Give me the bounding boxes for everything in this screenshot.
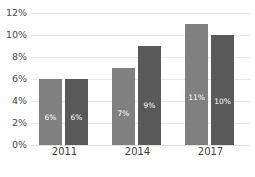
- bars-layer: 6%6%7%9%11%10%: [31, 13, 250, 145]
- bar-value-label: 11%: [185, 94, 208, 102]
- plot-area: 6%6%7%9%11%10%: [31, 13, 250, 145]
- bar-value-label: 6%: [65, 114, 88, 122]
- y-axis-tick-label: 4%: [0, 96, 27, 106]
- bar[interactable]: 7%: [112, 68, 135, 145]
- bar-chart: 0%2%4%6%8%10%12% 6%6%7%9%11%10% 20112014…: [0, 0, 255, 177]
- bar-value-label: 6%: [39, 114, 62, 122]
- bar[interactable]: 6%: [39, 79, 62, 145]
- y-axis-tick-label: 6%: [0, 74, 27, 84]
- bar-group: 6%6%: [31, 13, 104, 145]
- bar[interactable]: 10%: [211, 35, 234, 145]
- x-axis-tick-label: 2017: [198, 147, 223, 157]
- y-axis-tick-label: 2%: [0, 118, 27, 128]
- bar[interactable]: 9%: [138, 46, 161, 145]
- y-axis-tick-label: 8%: [0, 52, 27, 62]
- y-axis-tick-label: 0%: [0, 140, 27, 150]
- bar-value-label: 10%: [211, 98, 234, 106]
- y-axis-tick-label: 10%: [0, 30, 27, 40]
- bar-group: 7%9%: [104, 13, 177, 145]
- bar-value-label: 9%: [138, 102, 161, 110]
- x-axis-tick-label: 2014: [125, 147, 150, 157]
- x-axis: 201120142017: [31, 147, 250, 165]
- bar-group: 11%10%: [177, 13, 250, 145]
- y-axis-tick-label: 12%: [0, 8, 27, 18]
- y-axis: 0%2%4%6%8%10%12%: [0, 0, 30, 155]
- bar-value-label: 7%: [112, 110, 135, 118]
- x-axis-tick-label: 2011: [52, 147, 77, 157]
- bar[interactable]: 11%: [185, 24, 208, 145]
- bar[interactable]: 6%: [65, 79, 88, 145]
